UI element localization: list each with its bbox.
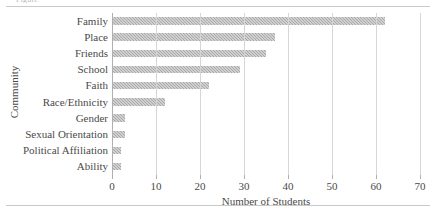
x-tick-label-10: 10 [136,180,176,193]
gridline-60 [376,13,377,175]
x-tick-label-30: 30 [224,180,264,193]
bar-school [112,66,240,73]
bar-sexual-orientation [112,131,125,138]
bar-rows [112,13,420,175]
bar-row [112,94,420,110]
bar-friends [112,50,266,57]
x-tick-10 [156,175,157,179]
top-divider [6,6,430,7]
bar-row [112,143,420,159]
x-tick-50 [332,175,333,179]
figure-container: Figure FamilyPlaceFriendsSchoolFaithRace… [0,0,436,214]
x-tick-label-60: 60 [356,180,396,193]
gridline-10 [156,13,157,175]
x-tick-label-20: 20 [180,180,220,193]
bar-row [112,13,420,29]
bar-gender [112,114,125,121]
bar-faith [112,82,209,89]
x-tick-label-40: 40 [268,180,308,193]
bar-row [112,45,420,61]
gridline-50 [332,13,333,175]
bar-family [112,17,385,24]
x-tick-label-50: 50 [312,180,352,193]
bar-row [112,126,420,142]
bar-row [112,78,420,94]
gridline-40 [288,13,289,175]
bar-ability [112,163,121,170]
bar-row [112,159,420,175]
x-tick-60 [376,175,377,179]
y-axis-label-ability: Ability [0,160,108,172]
x-tick-30 [244,175,245,179]
y-axis-title: Community [8,37,20,147]
gridline-70 [420,13,421,175]
bottom-divider [6,205,430,206]
x-tick-label-0: 0 [92,180,132,193]
caption-fragment: Figure [16,0,38,3]
x-tick-20 [200,175,201,179]
bar-place [112,33,275,40]
y-axis-label-family: Family [0,15,108,27]
bar-row [112,62,420,78]
gridline-20 [200,13,201,175]
bar-political-affiliation [112,147,121,154]
bar-row [112,29,420,45]
x-tick-0 [112,175,113,179]
x-tick-70 [420,175,421,179]
bar-row [112,110,420,126]
plot-area [112,13,420,175]
x-tick-label-70: 70 [400,180,436,193]
x-tick-40 [288,175,289,179]
gridline-30 [244,13,245,175]
gridline-0 [112,13,113,175]
